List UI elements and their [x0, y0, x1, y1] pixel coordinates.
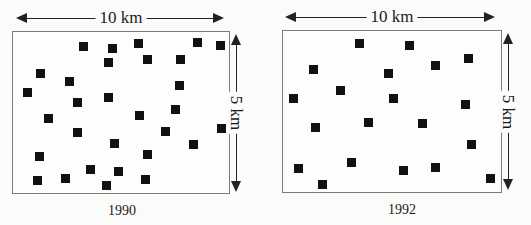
- arrowhead-right-icon: [484, 12, 495, 22]
- width-arrow: 10 km: [285, 11, 495, 23]
- settlement-marker: [135, 111, 144, 120]
- region-box: [282, 30, 502, 193]
- settlement-marker: [86, 165, 95, 174]
- settlement-marker: [309, 65, 318, 74]
- arrowhead-down-icon: [231, 181, 241, 192]
- height-label: 5 km: [498, 91, 518, 133]
- settlement-marker: [399, 166, 408, 175]
- settlement-marker: [79, 42, 88, 51]
- year-label: 1992: [388, 202, 416, 218]
- settlement-marker: [104, 93, 113, 102]
- settlement-marker: [102, 181, 111, 190]
- settlement-marker: [61, 174, 70, 183]
- settlement-marker: [143, 150, 152, 159]
- settlement-marker: [193, 38, 202, 47]
- height-label: 5 km: [226, 92, 246, 134]
- settlement-marker: [114, 167, 123, 176]
- settlement-marker: [364, 118, 373, 127]
- settlement-marker: [405, 41, 414, 50]
- settlement-marker: [217, 124, 226, 133]
- year-label: 1990: [108, 203, 136, 219]
- settlement-marker: [294, 164, 303, 173]
- settlement-marker: [431, 163, 440, 172]
- settlement-marker: [311, 123, 320, 132]
- settlement-marker: [467, 140, 476, 149]
- width-label: 10 km: [367, 7, 418, 27]
- settlement-marker: [161, 127, 170, 136]
- width-arrow: 10 km: [16, 12, 224, 24]
- settlement-marker: [189, 140, 198, 149]
- settlement-marker: [23, 88, 32, 97]
- settlement-marker: [418, 119, 427, 128]
- height-arrow: 5 km: [502, 33, 514, 190]
- settlement-marker: [175, 81, 184, 90]
- settlement-marker: [33, 176, 42, 185]
- settlement-marker: [347, 158, 356, 167]
- settlement-marker: [384, 69, 393, 78]
- settlement-marker: [216, 41, 225, 50]
- settlement-marker: [355, 39, 364, 48]
- settlement-marker: [141, 175, 150, 184]
- settlement-marker: [134, 39, 143, 48]
- settlement-marker: [486, 174, 495, 183]
- settlement-marker: [65, 77, 74, 86]
- settlement-marker: [44, 114, 53, 123]
- settlement-marker: [461, 100, 470, 109]
- settlement-marker: [143, 55, 152, 64]
- settlement-marker: [318, 180, 327, 189]
- settlement-marker: [110, 139, 119, 148]
- settlement-marker: [73, 98, 82, 107]
- settlement-marker: [336, 86, 345, 95]
- settlement-marker: [171, 105, 180, 114]
- height-arrow: 5 km: [230, 34, 242, 192]
- settlement-marker: [176, 55, 185, 64]
- settlement-marker: [431, 61, 440, 70]
- arrowhead-right-icon: [213, 13, 224, 23]
- settlement-marker: [464, 54, 473, 63]
- region-box: [12, 31, 230, 194]
- arrowhead-down-icon: [503, 179, 513, 190]
- settlement-marker: [389, 94, 398, 103]
- settlement-marker: [104, 58, 113, 67]
- width-label: 10 km: [96, 8, 147, 28]
- settlement-marker: [108, 44, 117, 53]
- settlement-marker: [36, 69, 45, 78]
- settlement-marker: [35, 152, 44, 161]
- settlement-marker: [73, 128, 82, 137]
- settlement-marker: [289, 94, 298, 103]
